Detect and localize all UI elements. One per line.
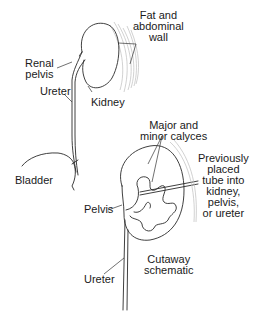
calyces [126, 177, 176, 231]
ureter-top [72, 52, 82, 172]
label-bladder: Bladder [15, 175, 53, 186]
label-fat-wall: Fat and abdominal wall [133, 10, 184, 43]
label-calyces: Major and minor calyces [140, 120, 207, 142]
ureter-bottom [123, 220, 125, 310]
label-cutaway: Cutaway schematic [144, 254, 194, 276]
placed-tube [140, 181, 198, 192]
label-ureter-bottom: Ureter [84, 274, 115, 285]
label-tube: Previously placed tube into kidney, pelv… [198, 153, 249, 219]
label-kidney: Kidney [91, 97, 125, 108]
label-pelvis: Pelvis [84, 204, 113, 215]
label-renal-pelvis: Renal pelvis [25, 58, 54, 80]
kidney-top [81, 23, 119, 88]
label-ureter-top: Ureter [40, 86, 71, 97]
